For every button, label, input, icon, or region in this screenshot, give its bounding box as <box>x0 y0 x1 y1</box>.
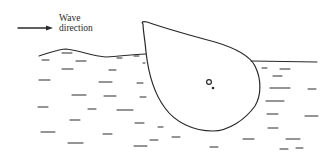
center-dot-icon <box>212 87 215 90</box>
water-hatching <box>38 53 318 149</box>
wave-direction-label-line2: direction <box>59 23 93 33</box>
wave-direction-label-line1: Wave <box>59 13 80 23</box>
water-surface-left <box>39 49 146 57</box>
water-surface-right <box>251 61 317 62</box>
wave-direction-arrow-icon <box>18 26 53 31</box>
wave-hull-diagram <box>0 0 335 152</box>
center-circle-icon <box>207 80 212 85</box>
hull-outline <box>142 22 260 131</box>
